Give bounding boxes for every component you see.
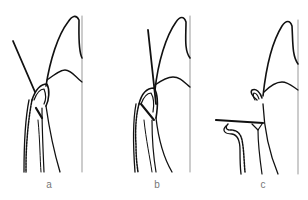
panel-label-b: b xyxy=(147,179,167,190)
dental-probe-diagram xyxy=(0,0,308,200)
panel-label-c: c xyxy=(253,179,273,190)
panel-b-drawing xyxy=(134,16,190,172)
panel-label-a: a xyxy=(39,179,59,190)
panel-c-drawing xyxy=(216,20,298,174)
panel-a-drawing xyxy=(13,16,82,172)
